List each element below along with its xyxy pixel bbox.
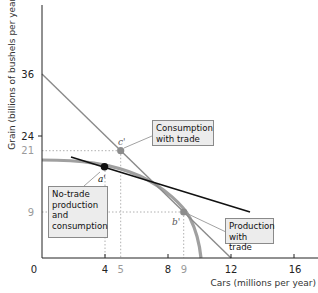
y-axis-title: Grain (billions of bushels per year) — [7, 0, 17, 150]
point-a — [101, 163, 109, 171]
callout-line: with trade — [156, 134, 210, 145]
callout-consumption-with-trade: Consumption with trade — [152, 120, 214, 146]
callout-line: with trade — [229, 232, 270, 253]
y-tick-21: 21 — [21, 145, 34, 156]
callout-line: Production — [229, 221, 270, 232]
x-tick-8: 8 — [165, 264, 171, 275]
callout-line: production — [52, 200, 104, 211]
x-tick-5: 5 — [118, 264, 124, 275]
callout-no-trade: No-trade production and consumption — [48, 186, 108, 238]
y-tick-36: 36 — [21, 69, 34, 80]
callout-line: Consumption — [156, 123, 210, 134]
y-tick-24: 24 — [21, 131, 34, 142]
callout-production-with-trade: Production with trade — [225, 218, 274, 244]
callout-line: and — [52, 210, 104, 221]
point-c — [117, 147, 124, 154]
callout-line: consumption — [52, 221, 104, 232]
x-tick-16: 16 — [289, 264, 302, 275]
x-tick-12: 12 — [225, 264, 238, 275]
callout-line: No-trade — [52, 189, 104, 200]
label-a: a' — [98, 174, 106, 184]
label-b: b' — [172, 217, 180, 227]
label-c: c' — [118, 137, 126, 147]
chart-canvas: c' a' b' 36 24 21 9 0 4 5 8 9 12 16 Cars… — [0, 0, 318, 293]
x-axis-title: Cars (millions per year) — [211, 278, 317, 288]
origin-label: 0 — [31, 264, 37, 275]
point-b — [180, 208, 187, 215]
y-tick-9: 9 — [28, 207, 34, 218]
x-tick-4: 4 — [102, 264, 108, 275]
x-tick-9: 9 — [181, 264, 187, 275]
